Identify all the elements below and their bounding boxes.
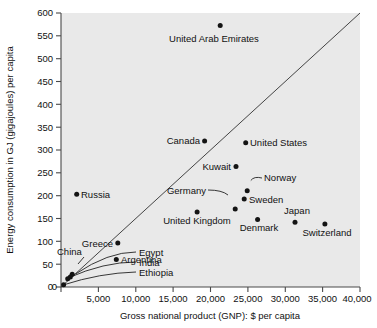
- data-point-germany: [233, 206, 238, 211]
- data-point-ethiopia: [61, 282, 66, 287]
- data-point-japan: [293, 220, 298, 225]
- data-point-united-states: [243, 140, 248, 145]
- data-point-argentina: [114, 257, 119, 262]
- chart-svg: 0 50 100 150 200 250 300 350 400 450 500…: [0, 0, 377, 328]
- y-tick-label: 400: [37, 99, 53, 110]
- point-label-ethiopia: Ethiopia: [139, 267, 174, 278]
- data-point-switzerland: [322, 221, 327, 226]
- point-label-switzerland: Switzerland: [302, 227, 351, 238]
- x-tick-label: 5,000: [87, 293, 111, 304]
- point-label-sweden: Sweden: [249, 194, 283, 205]
- point-label-united-kingdom: United Kingdom: [163, 215, 231, 226]
- data-point-kuwait: [234, 164, 239, 169]
- x-tick-label: 20,000: [196, 293, 225, 304]
- x-tick-label: 15,000: [159, 293, 188, 304]
- y-tick-label: 50: [42, 259, 53, 270]
- x-tick-label: 35,000: [308, 293, 337, 304]
- x-tick-label: 10,000: [121, 293, 150, 304]
- y-tick-label: 550: [37, 30, 53, 41]
- y-tick-label: 350: [37, 122, 53, 133]
- data-point-norway: [245, 188, 250, 193]
- data-point-united-arab-emirates: [218, 23, 223, 28]
- x-tick-label: 0: [52, 281, 57, 292]
- point-label-united-arab-emirates: United Arab Emirates: [169, 33, 259, 44]
- point-label-germany: Germany: [167, 185, 206, 196]
- data-point-canada: [202, 138, 207, 143]
- point-label-russia: Russia: [81, 189, 111, 200]
- y-tick-label: 500: [37, 53, 53, 64]
- x-axis-title: Gross national product (GNP): $ per capi…: [120, 310, 301, 321]
- x-tick-label: 30,000: [271, 293, 300, 304]
- point-label-canada: Canada: [167, 135, 201, 146]
- y-axis-title: Energy consumption in GJ (gigajoules) pe…: [4, 46, 15, 254]
- data-point-sweden: [242, 196, 247, 201]
- x-tick-label: 40,000: [342, 293, 371, 304]
- point-label-united-states: United States: [250, 137, 307, 148]
- point-label-kuwait: Kuwait: [202, 161, 231, 172]
- y-tick-label: 600: [37, 7, 53, 18]
- y-tick-label: 250: [37, 167, 53, 178]
- x-tick-label: 25,000: [233, 293, 262, 304]
- point-label-denmark: Denmark: [240, 222, 279, 233]
- data-point-united-kingdom: [195, 210, 200, 215]
- y-tick-label: 100: [37, 236, 53, 247]
- point-label-china: China: [57, 246, 83, 257]
- data-point-india: [65, 276, 70, 281]
- y-tick-label: 200: [37, 190, 53, 201]
- energy-gnp-scatter-chart: 0 50 100 150 200 250 300 350 400 450 500…: [0, 0, 377, 328]
- y-tick-label: 450: [37, 76, 53, 87]
- data-point-russia: [74, 192, 79, 197]
- point-label-japan: Japan: [284, 205, 310, 216]
- y-tick-label: 150: [37, 213, 53, 224]
- data-point-greece: [115, 241, 120, 246]
- y-tick-label: 300: [37, 144, 53, 155]
- point-label-norway: Norway: [264, 172, 296, 183]
- point-label-greece: Greece: [82, 238, 113, 249]
